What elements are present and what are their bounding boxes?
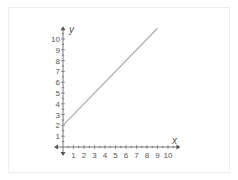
x-tick-label: 6 bbox=[124, 151, 129, 160]
x-tick-label: 7 bbox=[134, 151, 139, 160]
axes: 1234567891012345678910 bbox=[51, 26, 180, 160]
y-axis-label: y bbox=[68, 24, 75, 35]
x-axis-left-arrow-icon bbox=[54, 145, 58, 150]
y-tick-label: 10 bbox=[51, 35, 60, 44]
y-tick-label: 3 bbox=[56, 111, 61, 120]
x-tick-label: 8 bbox=[145, 151, 150, 160]
y-axis-down-arrow-icon bbox=[61, 152, 66, 156]
y-tick-label: 6 bbox=[56, 78, 61, 87]
y-tick-label: 9 bbox=[56, 46, 61, 55]
x-axis-arrow-icon bbox=[176, 145, 180, 150]
x-tick-label: 5 bbox=[113, 151, 118, 160]
x-tick-label: 4 bbox=[103, 151, 108, 160]
x-axis-label: x bbox=[171, 135, 178, 146]
x-tick-label: 10 bbox=[164, 151, 173, 160]
y-tick-label: 1 bbox=[56, 132, 61, 141]
y-tick-label: 8 bbox=[56, 57, 61, 66]
y-tick-label: 5 bbox=[56, 89, 61, 98]
series-line bbox=[63, 28, 158, 125]
y-axis-arrow-icon bbox=[61, 26, 66, 30]
y-tick-label: 2 bbox=[56, 121, 61, 130]
y-tick-label: 7 bbox=[56, 67, 61, 76]
x-tick-label: 1 bbox=[71, 151, 76, 160]
x-tick-label: 3 bbox=[92, 151, 97, 160]
line-chart: 1234567891012345678910 x y bbox=[0, 0, 238, 180]
x-tick-label: 2 bbox=[82, 151, 87, 160]
x-tick-label: 9 bbox=[155, 151, 160, 160]
y-tick-label: 4 bbox=[56, 100, 61, 109]
data-line bbox=[63, 28, 158, 125]
